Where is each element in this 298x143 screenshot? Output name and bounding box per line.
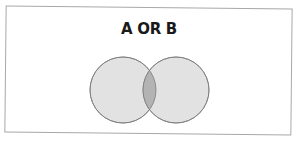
venn-diagram	[0, 0, 298, 143]
